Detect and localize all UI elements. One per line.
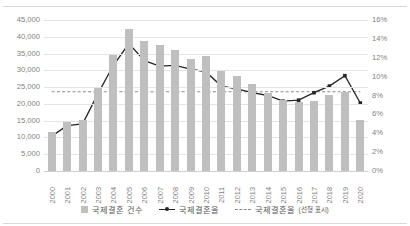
left-tick-10000: 10,000 [0,133,40,141]
plot-area [44,20,368,171]
bar-2015 [279,100,287,171]
bottom-divider [3,223,407,224]
bar-2000 [48,132,56,171]
right-tick-4: 4% [372,129,408,137]
bar-2003 [94,88,102,171]
bar-series-국제결혼-건수 [44,20,368,171]
right-tick-6: 6% [372,110,408,118]
right-tick-12: 12% [372,54,408,62]
left-tick-35000: 35,000 [0,50,40,58]
chart-legend: 국제결혼 건수 국제결혼율 국제결혼율(선형 표시) [0,200,410,218]
bar-2002 [79,120,87,171]
left-tick-25000: 25,000 [0,83,40,91]
bar-2014 [264,93,272,171]
left-tick-20000: 20,000 [0,100,40,108]
bar-2011 [217,71,225,171]
legend-item-trendline[interactable]: 국제결혼율(선형 표시) [235,203,329,215]
right-tick-0: 0% [372,167,408,175]
dashed-line-swatch-icon [235,206,251,213]
bar-2007 [156,45,164,171]
line-marker-swatch-icon [159,206,175,213]
top-divider [3,6,407,7]
bar-2020 [356,120,364,172]
left-tick-5000: 5,000 [0,150,40,158]
bar-2009 [187,59,195,171]
right-tick-14: 14% [372,35,408,43]
left-tick-15000: 15,000 [0,117,40,125]
right-tick-2: 2% [372,148,408,156]
bar-2008 [171,50,179,172]
bar-2006 [140,41,148,171]
left-tick-45000: 45,000 [0,16,40,24]
left-tick-40000: 40,000 [0,33,40,41]
bar-swatch-icon [81,206,88,213]
legend-item-bar[interactable]: 국제결혼 건수 [81,203,142,215]
legend-label-0: 국제결혼 건수 [92,203,142,215]
right-tick-10: 10% [372,73,408,81]
legend-label-1: 국제결혼율 [179,203,219,215]
bar-2005 [125,29,133,171]
bar-2019 [341,92,349,171]
bar-2018 [325,95,333,171]
bar-2016 [295,102,303,171]
right-tick-8: 8% [372,92,408,100]
bar-2001 [63,122,71,171]
gridline-0 [44,171,368,172]
legend-label-2: 국제결혼율 [255,203,295,215]
bar-2013 [248,84,256,171]
bar-2004 [109,55,117,171]
legend-item-line[interactable]: 국제결혼율 [159,203,219,215]
left-tick-0: 0 [0,167,40,175]
bar-2017 [310,101,318,171]
right-tick-16: 16% [372,16,408,24]
bar-2010 [202,56,210,171]
x-axis-labels: 2000200120022003200420052006200720082009… [44,173,368,203]
left-tick-30000: 30,000 [0,66,40,74]
bar-2012 [233,76,241,171]
chart-container: 05,00010,00015,00020,00025,00030,00035,0… [0,0,410,226]
legend-label-2-suffix: (선형 표시) [299,204,329,214]
